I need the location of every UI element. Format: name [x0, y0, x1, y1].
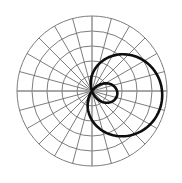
polar-plot-svg: [0, 0, 182, 183]
polar-chart-figure: [0, 0, 182, 183]
